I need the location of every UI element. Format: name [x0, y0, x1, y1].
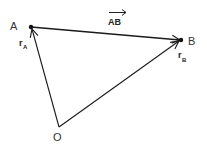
- vector-rb-subscript: B: [182, 57, 187, 63]
- point-o-label: O: [53, 131, 62, 143]
- vector-ab-line: [31, 27, 180, 40]
- ab-overarrow-icon: [109, 10, 126, 16]
- vector-ra-subscript: A: [23, 44, 28, 50]
- point-b-dot: [179, 38, 183, 42]
- vector-ab-label: AB: [108, 17, 121, 27]
- point-a-label: A: [10, 20, 18, 32]
- vector-rb-line: [59, 41, 179, 127]
- vector-diagram: A B O AB r A r B: [0, 0, 207, 149]
- vector-ra-line: [32, 29, 59, 127]
- point-a-dot: [29, 25, 33, 29]
- point-b-label: B: [188, 35, 195, 47]
